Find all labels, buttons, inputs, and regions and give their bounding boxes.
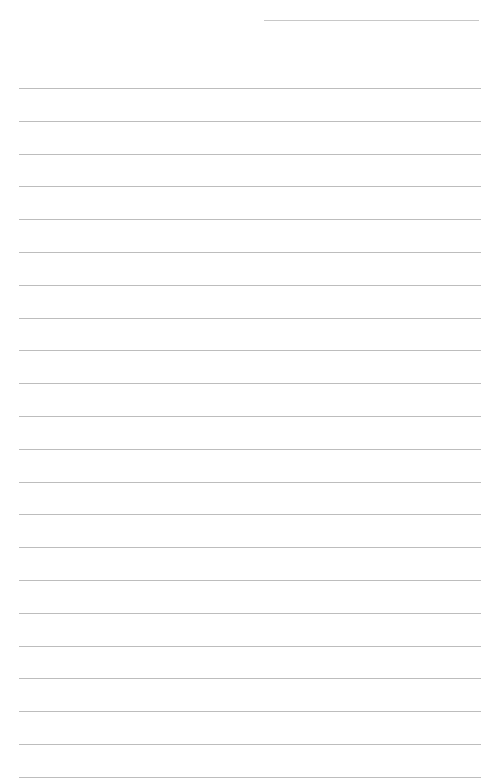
ruled-line [19,88,481,89]
ruled-line [19,219,481,220]
ruled-line [19,580,481,581]
ruled-line [19,646,481,647]
lined-page [0,0,487,784]
ruled-line [19,678,481,679]
ruled-line [19,449,481,450]
ruled-line [19,383,481,384]
ruled-line [19,613,481,614]
ruled-line [19,252,481,253]
ruled-line [19,711,481,712]
ruled-line [19,186,481,187]
ruled-line [19,416,481,417]
ruled-line [19,154,481,155]
header-date-line [264,20,479,21]
ruled-line [19,350,481,351]
ruled-line [19,547,481,548]
ruled-line [19,514,481,515]
ruled-line [19,482,481,483]
ruled-line [19,318,481,319]
ruled-line [19,121,481,122]
ruled-line [19,777,481,778]
ruled-line [19,744,481,745]
ruled-line [19,285,481,286]
